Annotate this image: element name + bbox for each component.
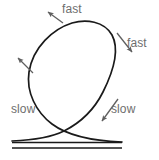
label-slow-left: slow bbox=[11, 103, 35, 116]
label-slow-right: slow bbox=[111, 103, 135, 116]
loop-curve-group bbox=[12, 21, 122, 142]
rail-lines-group bbox=[12, 143, 122, 149]
label-fast-right: fast bbox=[127, 37, 147, 50]
fast-top-arrow bbox=[48, 12, 63, 23]
figure-root: fast fast slow slow bbox=[0, 0, 159, 160]
loop-speed-diagram bbox=[0, 0, 159, 160]
label-fast-top: fast bbox=[62, 3, 82, 16]
loop-curve bbox=[12, 21, 122, 142]
